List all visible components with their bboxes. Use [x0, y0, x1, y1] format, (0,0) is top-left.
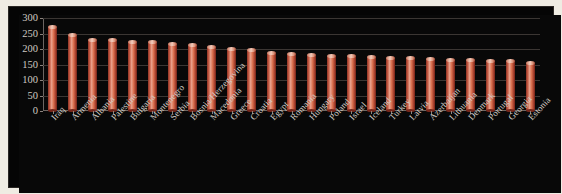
- bar-top-cap: [188, 43, 197, 47]
- bar-top-cap: [426, 57, 435, 61]
- bar: [287, 54, 296, 111]
- bar-top-cap: [287, 52, 296, 56]
- bar-top-cap: [108, 38, 117, 42]
- bar-top-cap: [347, 54, 356, 58]
- y-tick-mark: [40, 111, 43, 112]
- y-tick-mark: [40, 18, 43, 19]
- bar-top-cap: [506, 59, 515, 63]
- y-tick-label: 250: [8, 29, 38, 39]
- bar: [188, 45, 197, 111]
- bar-top-cap: [526, 61, 535, 65]
- bar-top-cap: [406, 56, 415, 60]
- y-tick-mark: [40, 49, 43, 50]
- y-tick-label: 200: [8, 44, 38, 54]
- bar-top-cap: [227, 47, 236, 51]
- y-tick-label: 300: [8, 13, 38, 23]
- bar-top-cap: [207, 45, 216, 49]
- gridline: [43, 34, 540, 35]
- bar-top-cap: [446, 58, 455, 62]
- bar-top-cap: [267, 51, 276, 55]
- y-tick-mark: [40, 96, 43, 97]
- bar-chart: 050100150200250300 IraqArmeniaAlbaniaPal…: [10, 8, 552, 186]
- bar: [68, 35, 77, 111]
- bar-top-cap: [486, 59, 495, 63]
- bar-top-cap: [327, 54, 336, 58]
- bar-top-cap: [247, 48, 256, 52]
- bar-top-cap: [386, 56, 395, 60]
- bar-top-cap: [48, 25, 57, 29]
- bar-top-cap: [88, 38, 97, 42]
- bar-top-cap: [128, 40, 137, 44]
- gridline: [43, 18, 540, 19]
- bar-top-cap: [148, 40, 157, 44]
- bar-top-cap: [466, 58, 475, 62]
- gridline: [43, 49, 540, 50]
- chart-figure: 050100150200250300 IraqArmeniaAlbaniaPal…: [0, 0, 562, 194]
- bar-top-cap: [68, 33, 77, 37]
- bar: [367, 57, 376, 111]
- bar-top-cap: [168, 42, 177, 46]
- bar: [48, 27, 57, 111]
- y-tick-label: 150: [8, 60, 38, 70]
- y-tick-mark: [40, 65, 43, 66]
- y-tick-mark: [40, 80, 43, 81]
- bar-top-cap: [307, 53, 316, 57]
- y-tick-label: 0: [8, 106, 38, 116]
- y-tick-mark: [40, 34, 43, 35]
- y-tick-label: 50: [8, 91, 38, 101]
- y-tick-label: 100: [8, 75, 38, 85]
- bar-top-cap: [367, 55, 376, 59]
